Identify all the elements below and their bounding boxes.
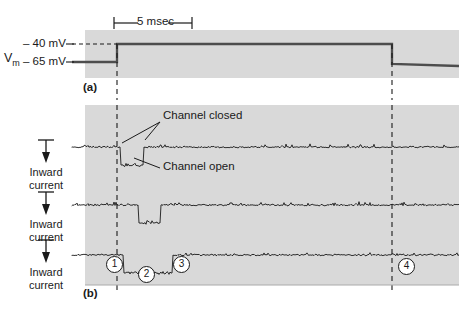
voltage-level-label-minus65: – 65 mV bbox=[23, 56, 66, 68]
panel-a-tag: (a) bbox=[83, 82, 97, 94]
vm-subscript: m bbox=[12, 58, 20, 68]
voltage-axis-ticks bbox=[66, 44, 74, 62]
panel-b-tag: (b) bbox=[83, 288, 98, 300]
inward-current-arrow-2 bbox=[38, 192, 54, 215]
current-trace-1 bbox=[72, 144, 459, 167]
inward-current-label-3-line1: Inward bbox=[15, 266, 77, 279]
inward-current-label-2-line1: Inward bbox=[15, 218, 77, 231]
inward-current-label-3: Inward current bbox=[15, 266, 77, 291]
inward-current-label-2-line2: current bbox=[15, 231, 77, 244]
voltage-level-label-minus40: – 40 mV bbox=[23, 38, 66, 50]
marker-circle-3: 3 bbox=[173, 256, 190, 273]
inward-current-arrow-3 bbox=[38, 240, 54, 263]
scale-bar-label: 5 msec bbox=[137, 16, 174, 28]
marker-circle-4: 4 bbox=[398, 258, 415, 275]
annotation-leader-lines bbox=[122, 122, 160, 168]
inward-current-arrow-1 bbox=[38, 140, 54, 163]
inward-current-label-3-line2: current bbox=[15, 279, 77, 292]
inward-current-label-1-line1: Inward bbox=[15, 166, 77, 179]
inward-current-label-1: Inward current bbox=[15, 166, 77, 191]
marker-circle-1: 1 bbox=[106, 256, 123, 273]
single-channel-traces bbox=[72, 144, 459, 275]
membrane-voltage-symbol: Vm bbox=[4, 52, 20, 68]
inward-current-label-1-line2: current bbox=[15, 179, 77, 192]
current-trace-2 bbox=[72, 202, 459, 225]
marker-circle-2: 2 bbox=[138, 266, 155, 283]
membrane-voltage-trace bbox=[72, 44, 459, 66]
figure-root: 5 msec – 40 mV – 65 mV Vm (a) (b) Inward… bbox=[0, 0, 459, 316]
annotation-channel-closed: Channel closed bbox=[163, 110, 242, 122]
inward-current-label-2: Inward current bbox=[15, 218, 77, 243]
annotation-channel-open: Channel open bbox=[163, 161, 235, 173]
